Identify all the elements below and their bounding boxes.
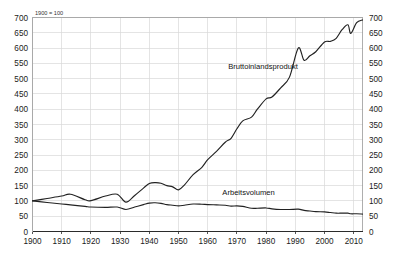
y-axis-right-tick-label: 150 xyxy=(369,182,383,191)
y-axis-left-tick-label: 200 xyxy=(14,166,28,175)
y-axis-right-tick-label: 650 xyxy=(369,29,383,38)
y-axis-right-tick-label: 600 xyxy=(369,44,383,53)
y-axis-right-tick-label: 200 xyxy=(369,166,383,175)
base-year-note: 1900 = 100 xyxy=(35,10,63,16)
y-axis-right-tick-label: 400 xyxy=(369,105,383,114)
chart-container: 0501001502002503003504004505005506006507… xyxy=(0,0,399,254)
y-axis-left-labels: 0501001502002503003504004505005506006507… xyxy=(14,14,28,237)
series-label-labour-volume: Arbeitsvolumen xyxy=(222,188,274,197)
x-axis-tick-label: 1960 xyxy=(199,237,218,246)
x-axis-tick-label: 2000 xyxy=(315,237,334,246)
x-axis-tick-label: 1910 xyxy=(53,237,72,246)
y-axis-left-tick-label: 550 xyxy=(14,59,28,68)
y-axis-right-tick-label: 500 xyxy=(369,75,383,84)
x-axis-tick-label: 1940 xyxy=(140,237,159,246)
y-axis-right-tick-label: 0 xyxy=(369,228,374,237)
y-axis-left-tick-label: 400 xyxy=(14,105,28,114)
y-axis-right-tick-label: 450 xyxy=(369,90,383,99)
y-axis-right-tick-label: 50 xyxy=(369,212,379,221)
x-axis-tick-label: 2010 xyxy=(345,237,364,246)
x-axis-tick-label: 1950 xyxy=(169,237,188,246)
x-axis-tick-label: 1970 xyxy=(228,237,247,246)
y-axis-left-tick-label: 0 xyxy=(23,228,28,237)
y-axis-left-tick-label: 150 xyxy=(14,182,28,191)
y-axis-right-tick-label: 250 xyxy=(369,151,383,160)
y-axis-left-tick-label: 100 xyxy=(14,197,28,206)
y-axis-right-tick-label: 100 xyxy=(369,197,383,206)
y-axis-left-tick-label: 600 xyxy=(14,44,28,53)
y-axis-left-tick-label: 50 xyxy=(19,212,29,221)
y-axis-right-tick-label: 300 xyxy=(369,136,383,145)
y-axis-right-tick-label: 700 xyxy=(369,14,383,23)
x-axis-tick-label: 1980 xyxy=(257,237,276,246)
y-axis-left-tick-label: 300 xyxy=(14,136,28,145)
y-axis-right-tick-label: 550 xyxy=(369,59,383,68)
y-axis-right-tick-label: 350 xyxy=(369,121,383,130)
y-axis-right-labels: 0501001502002503003504004505005506006507… xyxy=(369,14,383,237)
x-axis-tick-label: 1990 xyxy=(286,237,305,246)
x-axis-tick-label: 1930 xyxy=(111,237,130,246)
y-axis-left-tick-label: 450 xyxy=(14,90,28,99)
y-axis-left-tick-label: 350 xyxy=(14,121,28,130)
y-axis-left-tick-label: 700 xyxy=(14,14,28,23)
y-axis-left-tick-label: 250 xyxy=(14,151,28,160)
line-chart: 0501001502002503003504004505005506006507… xyxy=(0,0,399,254)
series-label-gdp: Bruttoinlandsprodukt xyxy=(228,62,299,71)
x-axis-tick-label: 1920 xyxy=(82,237,101,246)
x-axis-tick-label: 1900 xyxy=(23,237,42,246)
y-axis-left-tick-label: 500 xyxy=(14,75,28,84)
y-axis-left-tick-label: 650 xyxy=(14,29,28,38)
